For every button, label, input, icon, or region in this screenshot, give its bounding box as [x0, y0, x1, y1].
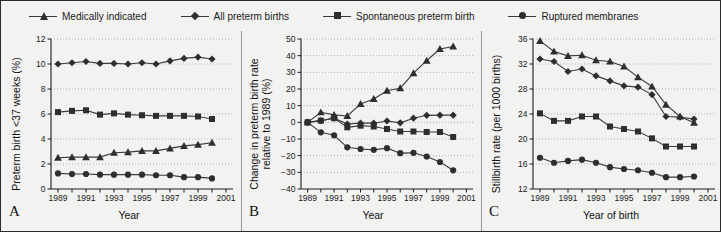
panel-a-y-axis-label: Preterm birth <37 weeks (%) — [3, 31, 29, 216]
legend-label: Spontaneous preterm birth — [356, 11, 474, 22]
circle-icon — [508, 11, 536, 21]
svg-text:2001: 2001 — [217, 193, 236, 203]
svg-text:1995: 1995 — [378, 193, 397, 203]
svg-text:10: 10 — [36, 59, 46, 69]
svg-text:10: 10 — [286, 101, 296, 111]
svg-text:20: 20 — [518, 134, 528, 144]
svg-text:1991: 1991 — [77, 193, 96, 203]
svg-text:12: 12 — [518, 184, 528, 194]
svg-text:1989: 1989 — [531, 193, 550, 203]
svg-text:1991: 1991 — [559, 193, 578, 203]
svg-text:28: 28 — [518, 84, 528, 94]
svg-text:1993: 1993 — [105, 193, 124, 203]
svg-text:1997: 1997 — [643, 193, 662, 203]
panel-b-y-axis-label: Change in preterm birth rate relative to… — [243, 31, 277, 216]
svg-text:1991: 1991 — [325, 193, 344, 203]
triangle-up-icon — [29, 11, 57, 21]
panel-a-plot: 0246810121989199119931995199719992001 — [29, 35, 237, 211]
svg-text:1997: 1997 — [404, 193, 423, 203]
panel-c-y-axis-label: Stillbirth rate (per 1000 births) — [483, 31, 509, 216]
svg-text:−20: −20 — [281, 151, 296, 161]
legend-label: Medically indicated — [62, 11, 147, 22]
svg-text:8: 8 — [41, 84, 46, 94]
svg-text:2: 2 — [41, 159, 46, 169]
svg-text:6: 6 — [41, 109, 46, 119]
panel-c: Stillbirth rate (per 1000 births) 121620… — [481, 31, 721, 232]
svg-text:1989: 1989 — [298, 193, 317, 203]
svg-text:1995: 1995 — [615, 193, 634, 203]
svg-text:20: 20 — [286, 84, 296, 94]
svg-text:1997: 1997 — [161, 193, 180, 203]
svg-text:−30: −30 — [281, 167, 296, 177]
panel-a: Preterm birth <37 weeks (%) 024681012198… — [1, 31, 241, 232]
legend-item-spontaneous-preterm-birth: Spontaneous preterm birth — [323, 11, 474, 22]
svg-text:2001: 2001 — [457, 193, 476, 203]
svg-text:1999: 1999 — [671, 193, 690, 203]
panel-c-plot: 1216202428323619891991199319951997199920… — [511, 35, 719, 211]
svg-text:32: 32 — [518, 59, 528, 69]
svg-text:−10: −10 — [281, 134, 296, 144]
svg-text:1995: 1995 — [133, 193, 152, 203]
legend-item-ruptured-membranes: Ruptured membranes — [508, 11, 638, 22]
svg-text:2001: 2001 — [699, 193, 718, 203]
svg-text:1993: 1993 — [351, 193, 370, 203]
legend-label: Ruptured membranes — [541, 11, 638, 22]
legend-item-medically-indicated: Medically indicated — [29, 11, 147, 22]
panel-a-letter: A — [9, 203, 20, 220]
panel-b: Change in preterm birth rate relative to… — [241, 31, 481, 232]
legend-item-all-preterm-births: All preterm births — [181, 11, 290, 22]
svg-text:16: 16 — [518, 159, 528, 169]
svg-text:0: 0 — [41, 184, 46, 194]
panel-a-x-axis-label: Year — [29, 209, 229, 221]
panel-c-letter: C — [489, 203, 499, 220]
svg-text:40: 40 — [286, 51, 296, 61]
panel-b-letter: B — [249, 203, 259, 220]
square-icon — [323, 11, 351, 21]
svg-text:1993: 1993 — [587, 193, 606, 203]
figure-container: Medically indicated All preterm births S… — [0, 0, 721, 232]
svg-text:36: 36 — [518, 35, 528, 44]
svg-text:1989: 1989 — [49, 193, 68, 203]
svg-text:4: 4 — [41, 134, 46, 144]
svg-text:1999: 1999 — [430, 193, 449, 203]
svg-text:50: 50 — [286, 35, 296, 44]
svg-text:0: 0 — [291, 117, 296, 127]
diamond-icon — [181, 11, 209, 21]
panel-b-x-axis-label: Year — [277, 209, 469, 221]
legend-label: All preterm births — [214, 11, 290, 22]
svg-text:1999: 1999 — [189, 193, 208, 203]
svg-text:−40: −40 — [281, 184, 296, 194]
svg-text:24: 24 — [518, 109, 528, 119]
panel-c-x-axis-label: Year of birth — [511, 209, 711, 221]
svg-text:30: 30 — [286, 67, 296, 77]
chart-legend: Medically indicated All preterm births S… — [1, 1, 721, 31]
svg-text:12: 12 — [36, 35, 46, 44]
panel-b-plot: −40−30−20−100102030405019891991199319951… — [277, 35, 477, 211]
